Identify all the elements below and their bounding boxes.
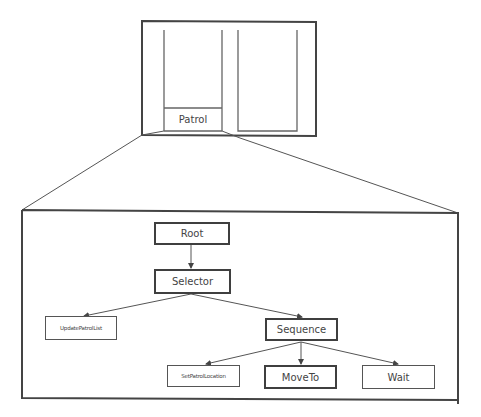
right-panel — [238, 30, 297, 131]
zoom-line-left — [22, 131, 164, 210]
edge-selector-sequence — [191, 294, 302, 317]
node-sequence: Sequence — [265, 318, 338, 341]
edge-sequence-setpatrol — [206, 342, 301, 364]
patrol-label: Patrol — [164, 108, 222, 131]
diagram-lines — [0, 0, 481, 417]
node-root: Root — [154, 222, 230, 245]
edge-selector-update — [84, 294, 191, 316]
node-set-patrol-location: SetPatrolLocation — [167, 365, 240, 387]
node-update-patrol-list: UpdatePatrolList — [45, 316, 117, 340]
node-selector: Selector — [154, 269, 231, 294]
zoom-line-right — [222, 131, 458, 213]
node-move-to: MoveTo — [264, 365, 337, 389]
edge-sequence-wait — [301, 342, 398, 364]
node-wait: Wait — [362, 365, 435, 389]
